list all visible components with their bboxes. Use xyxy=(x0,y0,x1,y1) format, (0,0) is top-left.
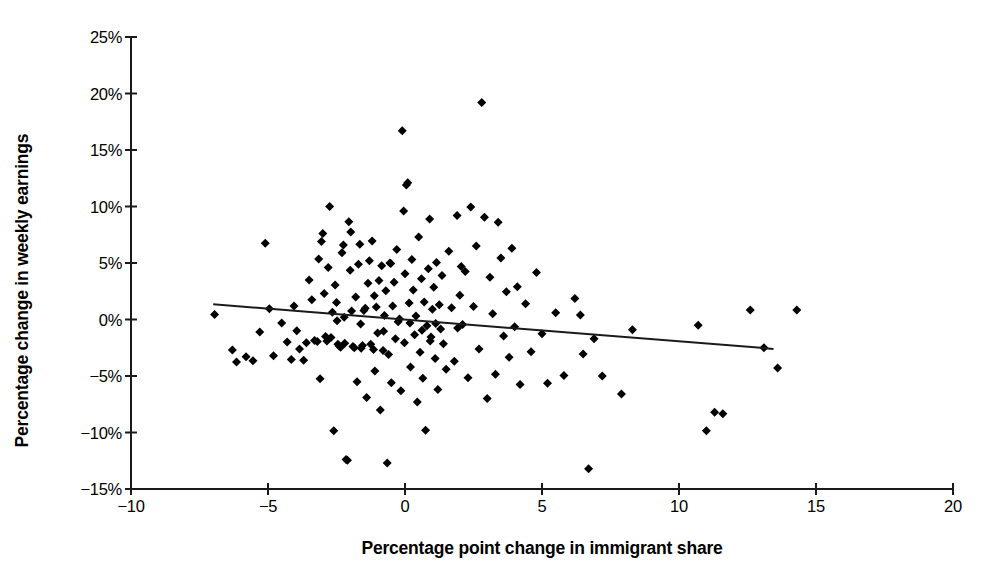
data-point xyxy=(551,308,560,317)
data-point xyxy=(232,357,241,366)
x-axis-tick-label: 0 xyxy=(401,497,410,516)
data-point xyxy=(488,309,497,318)
data-point xyxy=(435,300,444,309)
y-axis-tick-label: −10% xyxy=(81,423,122,442)
data-point xyxy=(472,242,481,251)
data-point xyxy=(320,289,329,298)
data-point xyxy=(337,248,346,257)
data-point xyxy=(428,305,437,314)
data-point xyxy=(351,292,360,301)
data-point xyxy=(437,271,446,280)
data-point xyxy=(381,286,390,295)
data-point xyxy=(317,237,326,246)
y-axis-tick-label: 5% xyxy=(99,254,122,273)
data-point xyxy=(450,357,459,366)
y-axis-tick-labels: −15%−10%−5%0%5%10%15%20%25% xyxy=(38,37,122,489)
data-point xyxy=(414,233,423,242)
data-point xyxy=(406,362,415,371)
data-point xyxy=(710,408,719,417)
data-point xyxy=(617,390,626,399)
data-point xyxy=(413,397,422,406)
plot-area xyxy=(131,37,953,489)
data-point xyxy=(365,256,374,265)
data-point xyxy=(455,291,464,300)
data-point xyxy=(328,308,337,317)
data-point xyxy=(316,374,325,383)
y-axis-tick-label: −5% xyxy=(89,367,122,386)
data-point xyxy=(532,268,541,277)
data-point xyxy=(410,330,419,339)
x-axis-tick-labels: −10−505101520 xyxy=(131,497,953,521)
data-point xyxy=(521,299,530,308)
data-point xyxy=(302,338,311,347)
data-point xyxy=(628,325,637,334)
data-point xyxy=(474,344,483,353)
data-point xyxy=(409,286,418,295)
data-point xyxy=(400,338,409,347)
data-point xyxy=(502,287,511,296)
data-point xyxy=(432,258,441,267)
data-point xyxy=(420,297,429,306)
data-point xyxy=(228,346,237,355)
data-point xyxy=(464,373,473,382)
data-point xyxy=(372,303,381,312)
y-axis-tick-label: 15% xyxy=(90,141,122,160)
data-point xyxy=(269,351,278,360)
data-point xyxy=(292,326,301,335)
y-axis-tick-label: −15% xyxy=(81,480,122,499)
data-point xyxy=(307,295,316,304)
data-point xyxy=(332,298,341,307)
x-axis-tick-label: −10 xyxy=(117,497,144,516)
data-point xyxy=(570,294,579,303)
data-point xyxy=(398,126,407,135)
data-point xyxy=(417,274,426,283)
data-point xyxy=(421,426,430,435)
x-axis-tick-label: 20 xyxy=(944,497,962,516)
data-point xyxy=(429,283,438,292)
data-point xyxy=(354,260,363,269)
data-point xyxy=(261,239,270,248)
x-axis-tick-label: −5 xyxy=(259,497,277,516)
data-point xyxy=(407,255,416,264)
data-point xyxy=(513,282,522,291)
data-point xyxy=(368,236,377,245)
data-point xyxy=(494,218,503,227)
data-point xyxy=(314,255,323,264)
data-point xyxy=(386,259,395,268)
axis-lines xyxy=(131,37,953,489)
data-point xyxy=(392,245,401,254)
y-axis-tick-label: 25% xyxy=(90,28,122,47)
data-point xyxy=(424,264,433,273)
data-point xyxy=(505,353,514,362)
data-point xyxy=(331,281,340,290)
data-point xyxy=(353,377,362,386)
data-point xyxy=(339,240,348,249)
data-point xyxy=(248,356,257,365)
data-point xyxy=(418,374,427,383)
data-point xyxy=(485,273,494,282)
plot-canvas xyxy=(131,37,953,489)
data-point xyxy=(325,202,334,211)
data-point xyxy=(364,279,373,288)
data-point xyxy=(295,344,304,353)
data-point xyxy=(318,229,327,238)
data-point xyxy=(425,214,434,223)
data-point xyxy=(718,409,727,418)
data-point xyxy=(442,365,451,374)
data-point xyxy=(491,370,500,379)
data-point xyxy=(290,301,299,310)
data-point xyxy=(496,253,505,262)
data-point xyxy=(305,275,314,284)
data-point xyxy=(792,305,801,314)
data-point xyxy=(370,291,379,300)
data-point xyxy=(399,207,408,216)
data-point xyxy=(383,459,392,468)
data-point xyxy=(702,426,711,435)
data-point xyxy=(439,339,448,348)
x-axis-tick-label: 10 xyxy=(670,497,688,516)
data-point xyxy=(516,380,525,389)
data-point xyxy=(344,217,353,226)
data-point xyxy=(287,355,296,364)
data-point xyxy=(387,378,396,387)
x-axis-tick-label: 15 xyxy=(807,497,825,516)
